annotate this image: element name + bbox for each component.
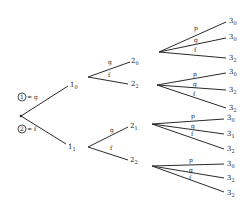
edge-l3 (152, 166, 224, 178)
node-2-2: 22 (131, 80, 139, 89)
edge-l3 (159, 22, 226, 52)
tree-diagram: 1 = g 2 = f 10 11 g f 20 22 g f 21 22 p … (0, 0, 246, 205)
node-3: 30 (227, 114, 235, 123)
node-3: 30 (227, 160, 235, 169)
edge-l3 (159, 52, 226, 58)
edge-label: g (110, 126, 114, 134)
node-3: 30 (229, 68, 237, 77)
legend-item-2: 2 = f (18, 125, 37, 133)
legend-1-number: 1 (20, 93, 24, 100)
node-3: 32 (229, 104, 237, 113)
edge-label: p (189, 156, 193, 164)
node-1-1: 11 (68, 143, 76, 152)
edge-label: f (108, 71, 111, 78)
edge-label: f (193, 90, 196, 97)
edge-l3 (152, 124, 224, 134)
edge-1-0-f (88, 77, 128, 84)
node-2-2b: 22 (130, 156, 138, 165)
node-3: 32 (227, 174, 235, 183)
edge-label: p (191, 112, 195, 120)
edge-l3 (152, 124, 224, 149)
node-3: 32 (227, 189, 235, 198)
edge-label: g (193, 80, 197, 88)
node-3: 30 (229, 17, 237, 26)
node-3: 32 (229, 54, 237, 63)
edge-l3 (152, 119, 224, 124)
edge-l3 (152, 166, 224, 192)
edge-label: p (193, 70, 197, 78)
edge-l3 (157, 85, 226, 90)
edge-label: p (194, 24, 198, 32)
legend-1-text: = g (27, 93, 38, 101)
edge-root-1-0 (21, 86, 68, 116)
node-1-0: 10 (70, 81, 78, 90)
edge-label: g (108, 58, 112, 66)
node-3: 30 (229, 33, 237, 42)
edge-l3 (152, 164, 224, 166)
edge-l3 (157, 85, 226, 108)
edge-1-1-f (88, 147, 128, 160)
edge-1-1-g (88, 127, 128, 147)
node-2-1: 21 (130, 122, 138, 131)
edge-label: g (189, 166, 193, 174)
node-3: 32 (227, 145, 235, 154)
edge-l3 (157, 73, 226, 85)
edge-label: f (191, 130, 194, 137)
node-2-0: 20 (131, 57, 139, 66)
edge-label: f (110, 144, 113, 151)
node-3: 31 (227, 130, 235, 139)
node-3: 32 (229, 86, 237, 95)
legend-item-1: 1 = g (18, 93, 38, 101)
edge-l3 (159, 38, 226, 52)
legend-2-number: 2 (20, 125, 24, 132)
edge-label: g (191, 122, 195, 130)
legend-2-text: = f (27, 125, 37, 132)
edge-label: f (194, 46, 197, 53)
edge-label: g (194, 36, 198, 44)
